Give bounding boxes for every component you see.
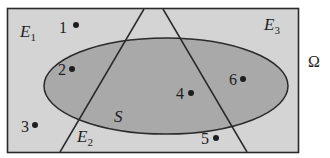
label-s: S [114, 107, 123, 126]
point-dot-icon [69, 66, 75, 72]
point-label: 1 [59, 19, 67, 36]
point-dot-icon [240, 76, 246, 82]
point-label: 5 [201, 130, 209, 147]
point-label: 6 [229, 71, 237, 88]
point-dot-icon [213, 135, 219, 141]
point-label: 2 [58, 61, 66, 78]
label-omega: Ω [308, 53, 320, 70]
point-dot-icon [32, 122, 38, 128]
point-dot-icon [73, 22, 79, 28]
venn-diagram: E1 E3 E2 S Ω 1 2 3 4 5 6 [0, 0, 330, 158]
set-s-ellipse [44, 38, 288, 134]
point-dot-icon [188, 90, 194, 96]
point-label: 3 [21, 118, 29, 135]
point-label: 4 [176, 85, 184, 102]
